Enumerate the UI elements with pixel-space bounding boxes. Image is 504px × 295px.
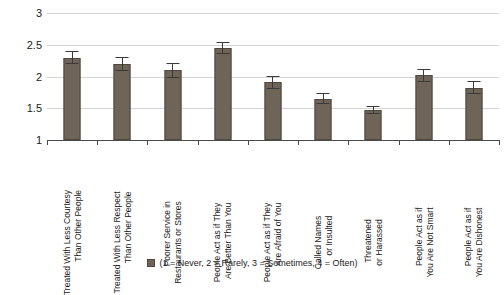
error-bar bbox=[367, 106, 380, 114]
y-axis-tick-label: 2 bbox=[36, 71, 42, 82]
error-bar bbox=[417, 69, 430, 82]
x-axis-label: People Act as ifYou Are Not Smart bbox=[399, 145, 449, 253]
x-axis-line: 1 bbox=[47, 140, 499, 141]
bar-group bbox=[399, 13, 449, 140]
x-axis-labels: Treated With Less CourtesyThan Other Peo… bbox=[47, 145, 499, 253]
plot-area: 11.522.53 bbox=[47, 13, 499, 140]
x-axis-label: Threatenedor Harassed bbox=[348, 145, 398, 253]
x-axis-label: Treated With Less CourtesyThan Other Peo… bbox=[47, 145, 97, 253]
y-axis-tick-label: 2.5 bbox=[27, 39, 42, 50]
bar bbox=[64, 58, 81, 140]
error-bar bbox=[467, 81, 480, 94]
x-axis-label-text: Treated With Less RespectThan Other Peop… bbox=[112, 191, 133, 293]
y-axis-tick-label: 3 bbox=[36, 8, 42, 19]
legend-label: (1 = Never, 2 = Rarely, 3 = Sometimes, 4… bbox=[160, 258, 358, 268]
error-bar bbox=[116, 57, 129, 71]
x-axis-label: People Act as if TheyAre Better Than You bbox=[198, 145, 248, 253]
bar-group bbox=[348, 13, 398, 140]
x-axis-label-text: People Act as if TheyAre Better Than You bbox=[212, 203, 233, 283]
bar bbox=[365, 110, 382, 140]
bar-group bbox=[248, 13, 298, 140]
bar bbox=[415, 75, 432, 140]
bar bbox=[315, 99, 332, 140]
legend-swatch-icon bbox=[147, 259, 155, 267]
x-axis-label-text: People Act as if TheyAre Afraid of You bbox=[262, 203, 283, 283]
bar-group bbox=[97, 13, 147, 140]
error-bar bbox=[216, 42, 229, 54]
x-axis-label: Poorer Service inRestaurants or Stores bbox=[147, 145, 197, 253]
x-axis-tick bbox=[499, 140, 500, 145]
bar-group bbox=[449, 13, 499, 140]
x-axis-label: Treated With Less RespectThan Other Peop… bbox=[97, 145, 147, 253]
bar-series bbox=[47, 13, 499, 140]
y-axis-tick-label: 1 bbox=[36, 135, 42, 146]
bar-group bbox=[198, 13, 248, 140]
x-axis-label: Called Namesor Insulted bbox=[298, 145, 348, 253]
bar bbox=[214, 48, 231, 140]
error-bar bbox=[266, 76, 279, 89]
error-bar bbox=[166, 63, 179, 79]
bar bbox=[164, 70, 181, 140]
error-bar bbox=[66, 51, 79, 64]
bar-group bbox=[47, 13, 97, 140]
error-bar bbox=[317, 93, 330, 104]
bar bbox=[465, 88, 482, 140]
x-axis-label-text: Treated With Less CourtesyThan Other Peo… bbox=[62, 190, 83, 295]
y-axis-tick-label: 1.5 bbox=[27, 103, 42, 114]
bar bbox=[114, 64, 131, 140]
bar bbox=[264, 82, 281, 140]
x-axis-label: People Act as if TheyAre Afraid of You bbox=[248, 145, 298, 253]
bar-group bbox=[298, 13, 348, 140]
bar-group bbox=[147, 13, 197, 140]
x-axis-label-text: Poorer Service inRestaurants or Stores bbox=[162, 201, 183, 284]
x-axis-label: People Act as ifYou Are Dishonest bbox=[449, 145, 499, 253]
chart-legend: (1 = Never, 2 = Rarely, 3 = Sometimes, 4… bbox=[0, 258, 504, 268]
